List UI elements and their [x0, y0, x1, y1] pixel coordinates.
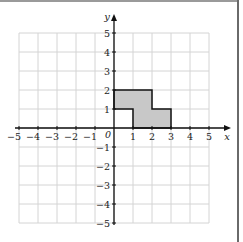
y-tick-label: −3 [96, 180, 110, 191]
y-tick-label: −2 [96, 161, 110, 172]
x-tick-label: −2 [64, 131, 78, 142]
x-tick-label: −1 [83, 131, 97, 142]
x-tick-label: 2 [149, 131, 155, 142]
x-tick-label: −5 [7, 131, 21, 142]
axes [15, 14, 231, 225]
origin-label: 0 [105, 129, 111, 140]
diagram-frame: −5−4−3−2−11234554321−1−2−3−4−50xy [0, 0, 243, 242]
y-tick-label: 5 [104, 28, 110, 39]
x-tick-label: −3 [45, 131, 59, 142]
x-axis-label: x [224, 131, 230, 142]
y-tick-label: 4 [104, 47, 110, 58]
y-tick-label: 1 [104, 104, 110, 115]
y-tick-label: −4 [96, 199, 110, 210]
y-axis-label: y [103, 11, 110, 22]
y-tick-label: 2 [104, 85, 110, 96]
x-tick-label: 1 [130, 131, 136, 142]
coordinate-plane: −5−4−3−2−11234554321−1−2−3−4−50xy [0, 0, 243, 242]
shaded-shape [114, 90, 171, 128]
x-tick-label: 4 [187, 131, 193, 142]
y-axis-arrow-icon [111, 14, 117, 21]
y-tick-label: 3 [104, 66, 110, 77]
x-tick-label: 5 [206, 131, 212, 142]
y-tick-label: −5 [96, 218, 110, 229]
x-tick-label: 3 [168, 131, 174, 142]
tick-labels: −5−4−3−2−11234554321−1−2−3−4−50xy [7, 11, 230, 229]
y-tick-label: −1 [96, 142, 110, 153]
x-tick-label: −4 [26, 131, 40, 142]
